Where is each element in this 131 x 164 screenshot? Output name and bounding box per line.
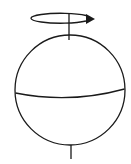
arrowhead-icon — [86, 14, 95, 24]
equator — [16, 89, 125, 98]
rotating-sphere-diagram — [0, 0, 131, 164]
rotation-arrow — [31, 13, 86, 23]
sphere-outline — [15, 35, 125, 145]
